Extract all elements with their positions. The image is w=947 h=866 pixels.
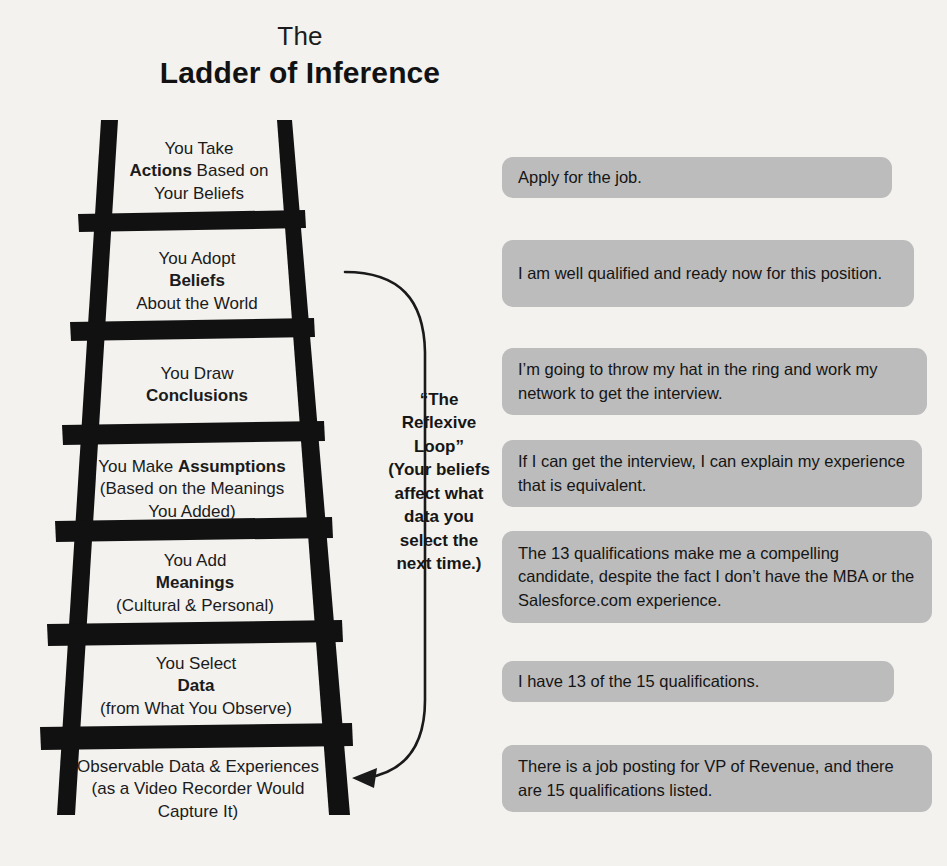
rung-observable-line2: (as a Video Recorder Would [58, 778, 338, 800]
rung-assumptions-keyword: Assumptions [178, 457, 286, 476]
rung-data-line1: You Select [73, 653, 319, 675]
rung-assumptions-line1-pre: You Make [98, 457, 178, 476]
example-text-observable-data: There is a job posting for VP of Revenue… [518, 755, 918, 802]
reflexive-loop-heading-line2: Reflexive [376, 411, 502, 434]
ladder-rung-3 [62, 421, 325, 445]
example-text-meanings: The 13 qualifications make me a compelli… [518, 542, 918, 612]
reflexive-loop-body-line5: next time.) [376, 552, 502, 575]
rung-meanings-line3: (Cultural & Personal) [82, 595, 308, 617]
reflexive-loop-body-line4: select the [376, 529, 502, 552]
rung-meanings-line1: You Add [82, 550, 308, 572]
rung-actions-keyword: Actions [130, 161, 192, 180]
reflexive-loop-body-line3: data you [376, 505, 502, 528]
rung-actions-line1: You Take [118, 138, 280, 160]
rung-assumptions-line2: (Based on the Meanings [78, 478, 306, 500]
example-text-data: I have 13 of the 15 qualifications. [518, 670, 759, 693]
ladder-of-inference-diagram: The Ladder of Inference You Take Actions… [0, 0, 947, 866]
rung-label-conclusions: You Draw Conclusions [103, 363, 291, 408]
example-text-assumptions: If I can get the interview, I can explai… [518, 450, 908, 497]
rung-label-data: You Select Data (from What You Observe) [73, 653, 319, 720]
rung-conclusions-keyword: Conclusions [146, 386, 248, 405]
ladder-rung-6 [40, 723, 353, 750]
rung-data-line2: Data [73, 675, 319, 697]
rung-beliefs-keyword: Beliefs [169, 271, 225, 290]
example-box-observable-data: There is a job posting for VP of Revenue… [502, 745, 932, 812]
example-text-conclusions: I’m going to throw my hat in the ring an… [518, 358, 913, 405]
reflexive-loop-body-line2: affect what [376, 482, 502, 505]
reflexive-loop-heading-line3: Loop” [376, 435, 502, 458]
ladder-rung-5 [47, 620, 343, 646]
rung-data-keyword: Data [178, 676, 215, 695]
rung-actions-line2: Actions Based on [118, 160, 280, 182]
example-box-conclusions: I’m going to throw my hat in the ring an… [502, 348, 927, 415]
rung-label-beliefs: You Adopt Beliefs About the World [112, 248, 282, 315]
reflexive-loop-body-line1: (Your beliefs [376, 458, 502, 481]
rung-conclusions-line1: You Draw [103, 363, 291, 385]
reflexive-loop-heading-line1: “The [376, 388, 502, 411]
example-box-meanings: The 13 qualifications make me a compelli… [502, 531, 932, 623]
rung-observable-line3: Capture It) [58, 801, 338, 823]
title-line-the: The [0, 22, 600, 51]
rung-label-meanings: You Add Meanings (Cultural & Personal) [82, 550, 308, 617]
reflexive-loop-label: “The Reflexive Loop” (Your beliefs affec… [376, 388, 502, 576]
rung-conclusions-line2: Conclusions [103, 385, 291, 407]
ladder-rung-1 [78, 210, 306, 232]
rung-assumptions-line1: You Make Assumptions [78, 456, 306, 478]
rung-data-line3: (from What You Observe) [73, 698, 319, 720]
rung-beliefs-line1: You Adopt [112, 248, 282, 270]
rung-meanings-keyword: Meanings [156, 573, 234, 592]
rung-label-assumptions: You Make Assumptions (Based on the Meani… [78, 456, 306, 523]
example-box-data: I have 13 of the 15 qualifications. [502, 661, 894, 702]
page-title: The Ladder of Inference [0, 22, 600, 91]
example-box-actions: Apply for the job. [502, 157, 892, 198]
rung-label-observable-data: Observable Data & Experiences (as a Vide… [58, 756, 338, 823]
rung-assumptions-line3: You Added) [78, 501, 306, 523]
example-text-beliefs: I am well qualified and ready now for th… [518, 262, 882, 285]
ladder-rung-2 [70, 318, 315, 341]
example-text-actions: Apply for the job. [518, 166, 642, 189]
example-box-beliefs: I am well qualified and ready now for th… [502, 240, 914, 307]
rung-beliefs-line2: Beliefs [112, 270, 282, 292]
rung-label-actions: You Take Actions Based on Your Beliefs [118, 138, 280, 205]
rung-meanings-line2: Meanings [82, 572, 308, 594]
rung-observable-line1: Observable Data & Experiences [58, 756, 338, 778]
rung-actions-line3: Your Beliefs [118, 183, 280, 205]
title-line-main: Ladder of Inference [0, 54, 600, 92]
reflexive-loop-arrowhead-icon [352, 768, 377, 788]
rung-beliefs-line3: About the World [112, 293, 282, 315]
example-box-assumptions: If I can get the interview, I can explai… [502, 440, 922, 507]
rung-actions-line2-rest: Based on [192, 161, 269, 180]
